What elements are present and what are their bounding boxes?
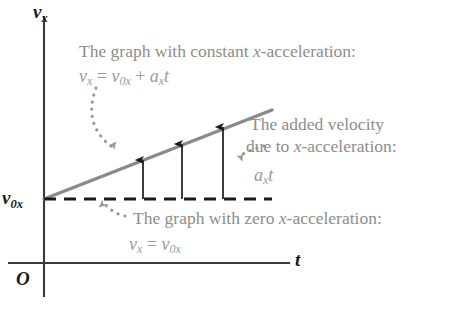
zero-acceleration-caption-post: -acceleration:: [287, 208, 382, 228]
formula-plus: +: [131, 66, 150, 86]
formula-equals: =: [92, 66, 111, 86]
added-velocity-formula: axt: [254, 165, 273, 188]
constant-acceleration-caption-pre: The graph with constant: [79, 41, 253, 61]
x-axis-label: t: [295, 249, 300, 270]
constant-acceleration-caption-variable: x: [253, 41, 261, 61]
added-velocity-time-symbol: t: [268, 165, 273, 185]
formula-velocity-symbol: v: [79, 66, 87, 86]
constant-acceleration-formula: vx = v0x + axt: [79, 66, 169, 89]
origin-label: O: [16, 268, 30, 289]
zero-acceleration-formula: vx = v0x: [129, 234, 181, 257]
added-velocity-caption-line1: The added velocity: [250, 115, 384, 135]
added-velocity-caption-text: The added velocity: [250, 114, 384, 134]
pointer-constant-acceleration: [92, 88, 112, 147]
constant-acceleration-line: [44, 110, 272, 199]
zero-formula-initial-velocity-subscript: 0x: [169, 242, 180, 256]
origin-label-symbol: O: [16, 268, 30, 289]
formula-time-symbol: t: [164, 66, 169, 86]
added-velocity-acceleration-symbol: a: [254, 165, 263, 185]
added-velocity-caption-pre: due to: [246, 136, 294, 156]
pointer-zero-acceleration: [104, 203, 125, 216]
y-axis-label: vx: [33, 1, 48, 25]
velocity-time-graph-figure: vx t O v0x The graph with constant x-acc…: [0, 0, 454, 315]
initial-velocity-label: v0x: [2, 187, 23, 211]
zero-formula-equals: =: [142, 234, 161, 254]
formula-initial-velocity-subscript: 0x: [119, 74, 130, 88]
formula-acceleration-symbol: a: [150, 66, 159, 86]
initial-velocity-subscript: 0x: [10, 197, 23, 211]
added-velocity-caption-post: -acceleration:: [301, 136, 396, 156]
x-axis-label-symbol: t: [295, 249, 300, 270]
zero-acceleration-caption-pre: The graph with zero: [133, 208, 279, 228]
y-axis-label-subscript: x: [41, 11, 47, 25]
zero-acceleration-caption: The graph with zero x-acceleration:: [133, 209, 382, 229]
constant-acceleration-caption-post: -acceleration:: [261, 41, 356, 61]
added-velocity-caption-line2: due to x-acceleration:: [246, 137, 397, 157]
zero-formula-velocity-symbol: v: [129, 234, 137, 254]
zero-acceleration-caption-variable: x: [279, 208, 287, 228]
constant-acceleration-caption: The graph with constant x-acceleration:: [79, 42, 356, 62]
